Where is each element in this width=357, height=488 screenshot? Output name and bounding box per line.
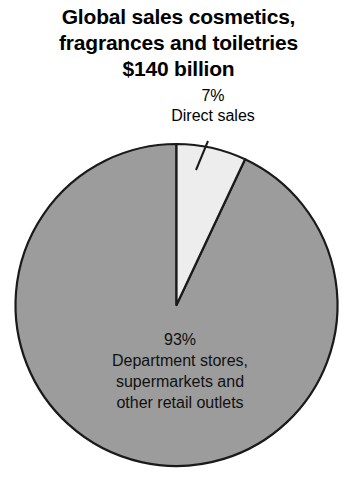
retail-label-line-1: Department stores,	[40, 350, 320, 371]
pie-graphic	[0, 0, 357, 488]
retail-percent: 93%	[40, 329, 320, 350]
retail-slice-label: 93% Department stores, supermarkets and …	[40, 329, 320, 413]
pie-chart-figure: Global sales cosmetics, fragrances and t…	[0, 0, 357, 488]
retail-label-line-2: supermarkets and	[40, 371, 320, 392]
retail-label-line-3: other retail outlets	[40, 392, 320, 413]
